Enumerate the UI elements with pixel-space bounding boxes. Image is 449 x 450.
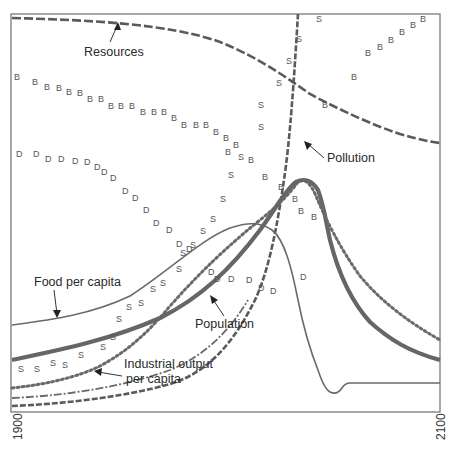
industrial-output-label-1: Industrial output (124, 357, 213, 371)
svg-text:S: S (180, 248, 186, 258)
svg-text:B: B (32, 77, 38, 87)
arrowhead-icon (304, 141, 312, 150)
svg-text:S: S (18, 364, 24, 374)
svg-text:S: S (258, 100, 264, 110)
svg-text:S: S (116, 314, 122, 324)
svg-text:B: B (420, 14, 426, 24)
svg-text:B: B (181, 120, 187, 130)
svg-text:D: D (258, 283, 265, 293)
svg-text:B: B (66, 87, 72, 97)
svg-text:B: B (161, 107, 167, 117)
svg-text:D: D (33, 149, 40, 159)
svg-text:S: S (100, 342, 106, 352)
svg-text:B: B (410, 20, 416, 30)
svg-text:B: B (311, 212, 317, 222)
svg-text:D: D (166, 225, 173, 235)
plot-frame (11, 14, 440, 412)
svg-text:S: S (238, 152, 244, 162)
svg-text:D: D (94, 162, 101, 172)
svg-text:B: B (193, 120, 199, 130)
svg-text:B: B (151, 107, 157, 117)
svg-text:S: S (78, 350, 84, 360)
svg-text:B: B (44, 82, 50, 92)
svg-text:S: S (160, 278, 166, 288)
svg-text:B: B (171, 113, 177, 123)
population-curve (12, 180, 440, 360)
svg-text:S: S (176, 264, 182, 274)
svg-text:S: S (50, 358, 56, 368)
svg-text:D: D (153, 218, 160, 228)
svg-text:B: B (140, 107, 146, 117)
svg-text:S: S (316, 14, 322, 24)
svg-text:D: D (270, 286, 277, 296)
svg-text:D: D (214, 274, 221, 284)
svg-text:D: D (132, 193, 139, 203)
svg-text:D: D (72, 156, 79, 166)
industrial-arrow (98, 372, 122, 376)
svg-text:B: B (351, 72, 357, 82)
svg-text:B: B (365, 48, 371, 58)
x-tick-2100: 2100 (434, 413, 448, 440)
svg-text:B: B (225, 147, 231, 157)
svg-text:S: S (110, 332, 116, 342)
svg-text:S: S (200, 226, 206, 236)
services-markers: SSSS SSSS SSSS SSSS SSSS SSSS SS (18, 14, 322, 374)
svg-text:S: S (286, 56, 292, 66)
svg-text:D: D (300, 272, 307, 282)
svg-text:D: D (122, 186, 129, 196)
svg-text:D: D (110, 173, 117, 183)
world-model-chart: BBBB BBBB BBBB BBBB BBBB BBBB BBBB BBBB … (0, 0, 449, 450)
svg-text:B: B (129, 101, 135, 111)
food-per-capita-label: Food per capita (34, 275, 121, 289)
svg-text:B: B (87, 94, 93, 104)
x-tick-1900: 1900 (11, 413, 25, 440)
svg-text:D: D (246, 275, 253, 285)
pollution-arrow (308, 144, 324, 158)
birth-rate-markers: BBBB BBBB BBBB BBBB BBBB BBBB BBBB BBBB … (14, 14, 426, 222)
svg-text:B: B (322, 100, 328, 110)
svg-text:D: D (101, 167, 108, 177)
resources-label: Resources (84, 45, 144, 59)
svg-text:S: S (150, 284, 156, 294)
svg-text:B: B (118, 101, 124, 111)
svg-text:S: S (258, 122, 264, 132)
industrial-output-label-2: per capita (126, 372, 181, 386)
svg-text:S: S (126, 302, 132, 312)
population-label: Population (195, 317, 254, 331)
svg-text:B: B (56, 83, 62, 93)
svg-text:B: B (203, 120, 209, 130)
svg-text:D: D (58, 154, 65, 164)
svg-text:S: S (190, 240, 196, 250)
arrowhead-icon (210, 295, 218, 304)
resources-curve (12, 18, 440, 143)
svg-text:S: S (276, 78, 282, 88)
svg-text:S: S (62, 360, 68, 370)
svg-text:B: B (292, 194, 298, 204)
svg-text:S: S (228, 170, 234, 180)
svg-text:S: S (138, 298, 144, 308)
svg-text:S: S (220, 194, 226, 204)
svg-text:S: S (210, 214, 216, 224)
svg-text:B: B (248, 155, 254, 165)
svg-text:D: D (228, 274, 235, 284)
svg-text:D: D (45, 154, 52, 164)
pollution-curve (12, 14, 298, 406)
svg-text:B: B (98, 94, 104, 104)
pollution-label: Pollution (327, 151, 375, 165)
svg-text:D: D (16, 149, 23, 159)
arrowhead-icon (53, 310, 61, 318)
svg-text:B: B (223, 133, 229, 143)
svg-text:S: S (34, 364, 40, 374)
svg-text:B: B (388, 35, 394, 45)
svg-text:B: B (298, 206, 304, 216)
svg-text:B: B (399, 27, 405, 37)
svg-text:B: B (14, 72, 20, 82)
svg-text:D: D (143, 205, 150, 215)
svg-text:B: B (77, 88, 83, 98)
svg-text:B: B (213, 127, 219, 137)
svg-text:B: B (108, 101, 114, 111)
svg-text:B: B (278, 182, 284, 192)
svg-text:B: B (262, 172, 268, 182)
svg-text:B: B (233, 140, 239, 150)
svg-text:D: D (84, 157, 91, 167)
